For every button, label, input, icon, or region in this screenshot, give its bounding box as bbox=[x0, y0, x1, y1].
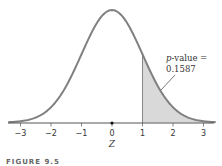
x-axis-title: Z bbox=[108, 139, 116, 149]
x-tick-label: 0 bbox=[109, 129, 114, 138]
normal-distribution-chart: −3−2−10123 p-value = 0.1587 Z bbox=[0, 0, 222, 166]
x-tick-label: −2 bbox=[45, 129, 57, 138]
p-value-annotation-line1: p-value = bbox=[166, 53, 207, 63]
p-value-annotation-line2: 0.1587 bbox=[166, 64, 196, 74]
x-tick-label: 1 bbox=[140, 129, 145, 138]
figure-caption: FIGURE 9.5 bbox=[6, 158, 60, 166]
annotation-leader-line bbox=[161, 75, 175, 90]
x-tick-label: −1 bbox=[76, 129, 88, 138]
x-axis-ticks: −3−2−10123 bbox=[15, 123, 206, 138]
x-tick-label: 2 bbox=[170, 129, 175, 138]
x-tick-label: −3 bbox=[15, 129, 27, 138]
mean-marker bbox=[110, 121, 113, 124]
x-tick-label: 3 bbox=[201, 129, 206, 138]
